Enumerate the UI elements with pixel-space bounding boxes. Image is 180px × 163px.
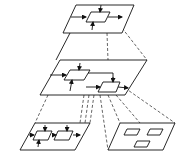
hierarchy-diagram <box>0 0 180 163</box>
middle-plane <box>40 60 147 95</box>
top-plane <box>63 5 134 33</box>
bottom-right-plane <box>108 123 175 150</box>
bottom-right-component-b <box>147 129 163 135</box>
bottom-right-component-c <box>134 141 150 147</box>
bottom-left-plane <box>20 123 90 150</box>
bottom-right-component-a <box>124 129 140 135</box>
